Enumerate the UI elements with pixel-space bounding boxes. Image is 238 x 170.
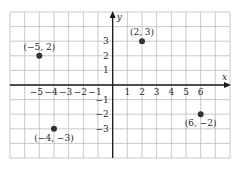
point-dot-icon bbox=[198, 111, 204, 117]
point-dot-icon bbox=[36, 53, 42, 59]
x-tick-label: 2 bbox=[139, 87, 145, 97]
y-tick-label: 1 bbox=[103, 65, 109, 75]
data-point: (6, −2) bbox=[185, 111, 217, 128]
point-label: (2, 3) bbox=[130, 27, 154, 37]
x-tick-label: 1 bbox=[124, 87, 130, 97]
y-tick-label: −1 bbox=[95, 95, 108, 105]
data-point: (−4, −3) bbox=[34, 126, 73, 143]
y-tick-label: 3 bbox=[103, 36, 109, 46]
x-tick-label: −2 bbox=[74, 87, 87, 97]
x-tick-label: −4 bbox=[44, 87, 58, 97]
x-tick-label: 3 bbox=[154, 87, 160, 97]
point-dot-icon bbox=[139, 38, 145, 44]
y-tick-label: −3 bbox=[95, 124, 109, 134]
data-point: (2, 3) bbox=[130, 27, 154, 44]
x-tick-label: 5 bbox=[183, 87, 189, 97]
point-dot-icon bbox=[51, 126, 57, 132]
point-label: (6, −2) bbox=[185, 118, 217, 128]
x-tick-label: 6 bbox=[198, 87, 204, 97]
x-tick-label: −5 bbox=[30, 87, 44, 97]
x-tick-label: 4 bbox=[168, 87, 174, 97]
data-point: (−5, 2) bbox=[23, 42, 55, 59]
coordinate-plane: xy −5−4−3−2−1123456321−1−2−3 (−5, 2)(2, … bbox=[0, 0, 238, 170]
x-tick-label: −3 bbox=[59, 87, 73, 97]
y-axis-label: y bbox=[116, 12, 123, 22]
y-tick-label: −2 bbox=[95, 109, 108, 119]
point-label: (−5, 2) bbox=[23, 42, 55, 52]
x-axis-label: x bbox=[222, 72, 227, 82]
point-label: (−4, −3) bbox=[34, 133, 73, 143]
y-tick-label: 2 bbox=[103, 51, 109, 61]
